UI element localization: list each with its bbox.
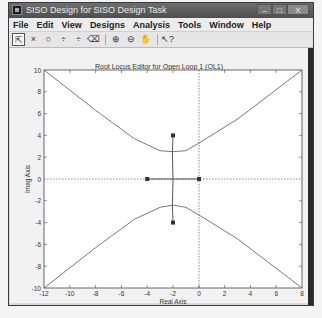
svg-text:-6: -6: [35, 241, 41, 248]
x-axis-label: Real Axis: [159, 298, 187, 305]
svg-text:10: 10: [34, 67, 42, 74]
svg-text:-2: -2: [170, 290, 176, 297]
y-axis-label: Imag Axis: [24, 164, 32, 193]
closed-loop-pole-marker-square[interactable]: [171, 133, 175, 137]
root-locus-plot[interactable]: 1086 420 -2-4-6 -8-10 -12-10-8 -6-4-2 02…: [0, 0, 322, 318]
svg-text:6: 6: [37, 110, 41, 117]
svg-text:-2: -2: [35, 197, 41, 204]
x-tick-labels: -12-10-8 -6-4-2 024 68: [39, 290, 304, 297]
svg-text:4: 4: [249, 290, 253, 297]
svg-text:-12: -12: [39, 290, 49, 297]
svg-text:2: 2: [37, 154, 41, 161]
svg-text:8: 8: [300, 290, 304, 297]
svg-text:-10: -10: [65, 290, 75, 297]
pole-marker-square[interactable]: [197, 177, 201, 181]
svg-text:-4: -4: [35, 219, 41, 226]
svg-text:4: 4: [37, 132, 41, 139]
svg-text:-6: -6: [119, 290, 125, 297]
svg-text:-4: -4: [144, 290, 150, 297]
svg-text:6: 6: [274, 290, 278, 297]
svg-text:-8: -8: [35, 263, 41, 270]
pole-marker-square[interactable]: [145, 177, 149, 181]
svg-text:2: 2: [223, 290, 227, 297]
svg-text:0: 0: [37, 176, 41, 183]
closed-loop-pole-marker-square[interactable]: [171, 221, 175, 225]
svg-text:8: 8: [37, 88, 41, 95]
svg-text:-8: -8: [93, 290, 99, 297]
y-tick-labels: 1086 420 -2-4-6 -8-10: [32, 67, 42, 292]
svg-text:0: 0: [197, 290, 201, 297]
